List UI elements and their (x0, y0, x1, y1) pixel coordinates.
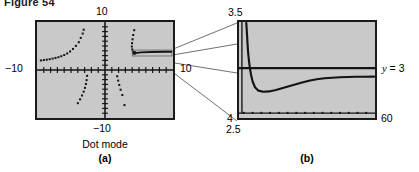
panel-a-caption-mode: Dot mode (65, 138, 145, 150)
panel-a-label-xmin: −10 (5, 63, 23, 74)
panel-b-screen (237, 20, 377, 120)
panel-a-label-ymax: 10 (96, 6, 108, 17)
panel-b-label-xmax: 60 (381, 113, 393, 124)
panel-b-caption-letter: (b) (267, 152, 347, 164)
panel-a-caption-letter: (a) (65, 152, 145, 164)
panel-a-screen (35, 20, 175, 120)
figure-root: Figure 54 (0, 0, 419, 172)
panel-a-label-ymin: −10 (93, 123, 111, 134)
panel-b-label-ymax: 3.5 (228, 7, 243, 18)
panel-b-asymptote-label: y = 3 (382, 62, 404, 74)
panel-b-label-xmin: 2.5 (226, 124, 241, 135)
panel-b-label-ymin: 4 (227, 113, 233, 124)
panel-a-label-xmax: 10 (180, 63, 192, 74)
panel-b-bottom-ticks (243, 112, 367, 114)
asymptote-equation-rest: = 3 (387, 62, 405, 74)
figure-title: Figure 54 (4, 0, 55, 8)
